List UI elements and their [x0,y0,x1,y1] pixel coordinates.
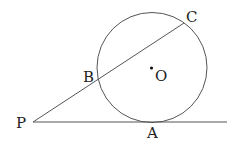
label-a: A [146,124,158,142]
label-p: P [16,114,26,132]
label-b: B [83,68,94,86]
label-c: C [186,8,197,26]
label-o: O [155,67,167,85]
geometry-diagram: P A B C O [0,0,244,150]
center-point-o [150,66,153,69]
